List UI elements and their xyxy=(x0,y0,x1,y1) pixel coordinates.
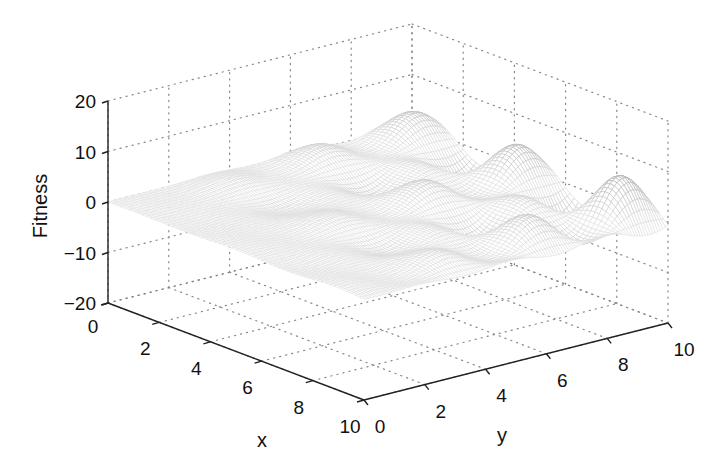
y-axis-label: y xyxy=(497,424,507,446)
x-tick-label: 4 xyxy=(191,358,202,379)
y-tick-label: 0 xyxy=(375,416,386,437)
x-tick-label: 8 xyxy=(294,397,305,418)
x-tick-label: 0 xyxy=(88,316,99,337)
y-tick-label: 4 xyxy=(496,385,507,406)
z-tick-label: 0 xyxy=(85,192,96,213)
z-tick-label: 20 xyxy=(75,91,96,112)
surface-plot: −20−100102002468100246810 Fitness x y xyxy=(0,0,728,475)
x-tick-label: 6 xyxy=(242,377,253,398)
x-tick-label: 2 xyxy=(140,338,151,359)
x-tick-label: 10 xyxy=(339,416,360,437)
surface-mesh xyxy=(108,112,668,300)
z-tick-label: 10 xyxy=(75,142,96,163)
y-tick-label: 10 xyxy=(673,339,694,360)
z-axis-label: Fitness xyxy=(29,174,51,238)
y-tick-label: 8 xyxy=(618,354,629,375)
x-axis-label: x xyxy=(257,429,267,451)
z-tick-label: −20 xyxy=(64,293,96,314)
y-tick-label: 2 xyxy=(436,401,447,422)
z-tick-label: −10 xyxy=(64,243,96,264)
y-tick-label: 6 xyxy=(557,370,568,391)
